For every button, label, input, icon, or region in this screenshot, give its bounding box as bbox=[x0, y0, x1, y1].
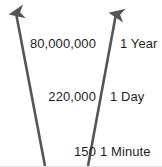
unit-label-day: 1 Day bbox=[110, 90, 144, 104]
unit-label-minute: 1 Minute bbox=[100, 145, 151, 159]
arrow-group bbox=[0, 0, 162, 167]
unit-label-year: 1 Year bbox=[120, 37, 157, 51]
count-label-year: 80,000,000 bbox=[28, 37, 96, 51]
count-label-day: 220,000 bbox=[40, 90, 96, 104]
count-label-minute: 150 bbox=[50, 145, 96, 159]
growth-diagram: 80,000,000 1 Year 220,000 1 Day 150 1 Mi… bbox=[0, 0, 162, 167]
